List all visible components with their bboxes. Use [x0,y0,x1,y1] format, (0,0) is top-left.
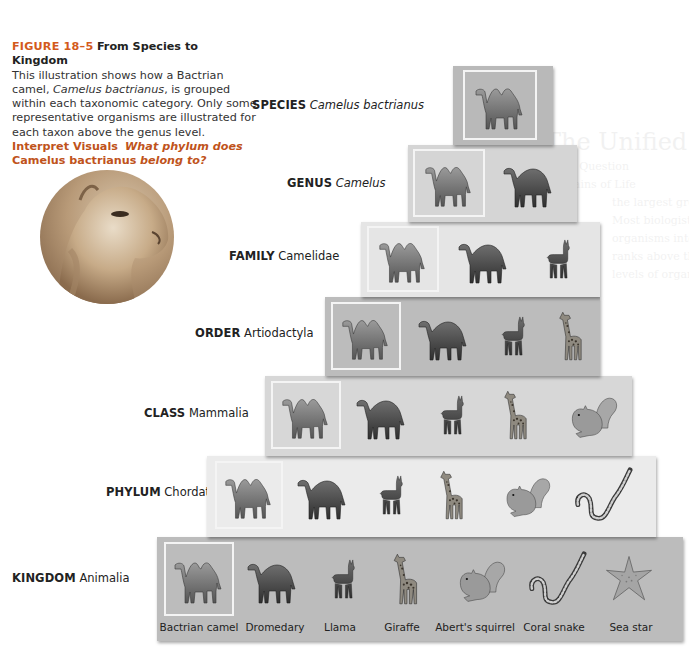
organism-sea-star [596,542,662,616]
organism-llama [425,381,481,449]
organism-giraffe [487,381,547,449]
giraffe-icon [494,382,540,448]
organism-coral-snake [522,542,592,616]
organism-dromedary [238,542,310,616]
tier-species [453,66,553,145]
organism-aberts-squirrel [440,542,518,616]
organism-giraffe [424,461,482,529]
snake-icon [526,550,588,608]
llama-icon [370,465,414,525]
organism-dromedary [288,461,360,529]
organism-llama [314,542,374,616]
organism-bactrian-camel [331,302,401,370]
bactrian-camel-icon [337,306,395,366]
ghost-line: Most biologists [612,214,689,227]
bactrian-camel-icon [277,385,335,445]
organism-bactrian-camel [164,542,234,616]
organism-bactrian-camel [463,70,537,140]
squirrel-icon [449,551,509,607]
organism-bactrian-camel [215,461,283,529]
tier-label-class: CLASS Mammalia [144,406,249,420]
interpret-question-end: belong to? [140,154,207,167]
organism-bactrian-camel [367,226,439,292]
ghost-line: ranks above the [612,250,689,263]
caption-dromedary: Dromedary [246,621,305,633]
organism-dromedary [347,381,419,449]
caption-coral-snake: Coral snake [523,621,585,633]
organism-aberts-squirrel [487,461,563,529]
snake-icon [572,466,634,524]
ghost-line: levels of organ [612,268,689,281]
bactrian-camel-icon [374,229,432,289]
squirrel-icon [496,468,554,522]
caption-sea-star: Sea star [609,621,652,633]
tier-label-family: FAMILY Camelidae [229,249,339,263]
caption-giraffe: Giraffe [384,621,420,633]
ghost-line: organisms into [612,232,689,245]
interpret-visuals-label: Interpret Visuals [12,140,118,153]
llama-icon [492,306,536,366]
interpret-question-name: Camelus bactrianus [12,154,136,167]
bactrian-camel-icon [169,548,229,610]
organism-captions: Bactrian camel Dromedary Llama Giraffe A… [157,621,683,635]
tier-phylum [207,456,656,537]
tier-label-order: ORDER Artiodactyla [195,326,314,340]
tier-label-phylum: PHYLUM Chordata [106,485,217,499]
organism-bactrian-camel [413,149,485,217]
organism-bactrian-camel [271,381,341,449]
tier-label-kingdom: KINGDOM Animalia [12,571,129,585]
bactrian-camel-icon [470,74,530,136]
organism-llama [365,461,419,529]
tier-order [325,297,600,376]
tier-family [361,222,600,297]
camel-photo [40,170,174,304]
giraffe-icon [430,462,476,528]
tier-label-species: SPECIES Camelus bactrianus [252,98,424,112]
tier-kingdom: Bactrian camel Dromedary Llama Giraffe A… [157,537,683,641]
interpret-question: What phylum does [125,140,243,153]
caption-llama: Llama [324,621,356,633]
tier-class [265,376,632,456]
llama-icon [322,549,366,609]
organism-coral-snake [568,461,638,529]
bactrian-camel-icon [220,465,278,525]
dromedary-icon [294,465,354,525]
bactrian-camel-icon [420,153,478,213]
caption-species: Camelus bactrianus [53,83,164,96]
dromedary-icon [500,153,560,213]
squirrel-icon [561,387,621,443]
figure-number: FIGURE 18–5 [12,40,93,53]
organism-dromedary [447,226,523,292]
organism-llama [489,302,539,370]
ghost-line: the largest group [612,196,689,209]
organism-giraffe [378,542,436,616]
organism-llama [531,226,587,292]
dromedary-icon [353,385,413,445]
organism-giraffe [547,302,597,370]
sea-star-icon [603,553,655,605]
organism-dromedary [409,302,481,370]
giraffe-icon [549,303,595,369]
caption-aberts-squirrel: Abert's squirrel [435,621,515,633]
caption-bactrian-camel: Bactrian camel [159,621,238,633]
camel-head-photo-icon [40,170,174,304]
giraffe-icon [383,544,431,614]
figure-caption: FIGURE 18–5 From Species to Kingdom This… [12,40,257,169]
dromedary-icon [455,229,515,289]
tier-label-genus: GENUS Camelus [287,176,386,190]
tier-genus [408,145,577,222]
dromedary-icon [244,548,304,610]
dromedary-icon [415,306,475,366]
llama-icon [431,385,475,445]
llama-icon [537,229,581,289]
organism-dromedary [495,149,565,217]
organism-aberts-squirrel [553,381,629,449]
